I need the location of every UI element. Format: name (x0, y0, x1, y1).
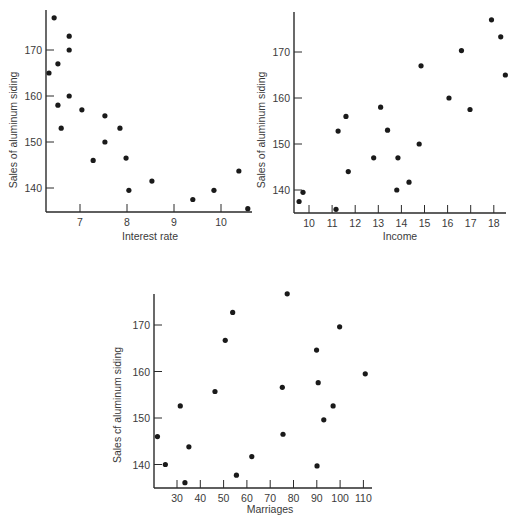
scatter-chart-marriages: Sales cf aluminum siding Marriages 14015… (110, 270, 390, 519)
x-tick-label: 10 (215, 216, 227, 228)
data-point (67, 34, 72, 39)
data-point (79, 107, 84, 112)
data-point (314, 348, 319, 353)
axes: 140150160170101112131415161718 (272, 12, 506, 229)
y-axis-label: Sales of aluminum siding (7, 71, 19, 188)
data-point (178, 403, 183, 408)
data-point (296, 199, 301, 204)
data-point (102, 139, 107, 144)
data-point (300, 190, 305, 195)
data-point (280, 385, 285, 390)
data-points (46, 15, 250, 211)
data-points (296, 17, 507, 212)
scatter-chart-interest-rate: Sales of aluminum siding Interest rate 1… (0, 0, 258, 250)
y-tick-label: 160 (24, 90, 42, 102)
data-point (503, 72, 508, 77)
data-point (91, 158, 96, 163)
data-point (417, 141, 422, 146)
y-axis-title: Sales of aluminum siding (7, 71, 19, 188)
data-point (155, 434, 160, 439)
y-tick-label: 150 (24, 136, 42, 148)
y-tick-label: 140 (132, 459, 150, 471)
scatter-chart-income: Sales of aluminum siding Income 14015016… (250, 0, 515, 250)
data-point (230, 310, 235, 315)
data-point (52, 15, 57, 20)
data-point (489, 17, 494, 22)
data-point (59, 126, 64, 131)
data-point (378, 105, 383, 110)
data-point (498, 34, 503, 39)
y-tick-label: 160 (272, 92, 290, 104)
data-point (406, 180, 411, 185)
data-point (212, 389, 217, 394)
data-point (117, 126, 122, 131)
data-point (418, 63, 423, 68)
data-point (234, 473, 239, 478)
x-tick-label: 50 (218, 492, 230, 504)
x-tick-label: 70 (264, 492, 276, 504)
data-point (55, 61, 60, 66)
data-point (249, 454, 254, 459)
data-point (123, 156, 128, 161)
data-point (363, 371, 368, 376)
y-tick-label: 170 (132, 319, 150, 331)
data-point (395, 155, 400, 160)
data-point (346, 169, 351, 174)
data-points (155, 291, 368, 485)
x-axis-label: Income (383, 230, 418, 242)
data-point (331, 403, 336, 408)
x-tick-label: 13 (372, 217, 384, 229)
x-tick-label: 9 (171, 216, 177, 228)
data-point (102, 113, 107, 118)
x-tick-label: 30 (171, 492, 183, 504)
data-point (236, 168, 241, 173)
y-tick-label: 140 (24, 182, 42, 194)
data-point (316, 380, 321, 385)
data-point (394, 187, 399, 192)
x-axis-label: Interest rate (122, 230, 178, 242)
data-point (46, 70, 51, 75)
data-point (371, 155, 376, 160)
data-point (67, 93, 72, 98)
y-tick-label: 140 (272, 184, 290, 196)
x-tick-label: 40 (194, 492, 206, 504)
data-point (182, 480, 187, 485)
x-tick-label: 17 (465, 217, 477, 229)
x-tick-label: 10 (303, 217, 315, 229)
x-tick-label: 15 (419, 217, 431, 229)
data-point (280, 432, 285, 437)
data-point (321, 417, 326, 422)
data-point (343, 114, 348, 119)
data-point (446, 95, 451, 100)
x-tick-label: 11 (327, 217, 338, 229)
data-point (186, 444, 191, 449)
data-point (211, 188, 216, 193)
x-tick-label: 100 (331, 492, 349, 504)
data-point (459, 48, 464, 53)
y-axis-title: Sales of aluminum siding (255, 71, 267, 188)
chart-canvas: Sales of aluminum siding Interest rate 1… (0, 0, 258, 250)
y-tick-label: 170 (272, 46, 290, 58)
x-tick-label: 7 (77, 216, 83, 228)
x-tick-label: 110 (355, 492, 372, 504)
x-tick-label: 80 (288, 492, 300, 504)
data-point (55, 103, 60, 108)
data-point (336, 129, 341, 134)
data-point (190, 197, 195, 202)
chart-canvas: Sales cf aluminum siding Marriages 14015… (110, 270, 390, 519)
y-tick-label: 150 (132, 412, 150, 424)
x-tick-label: 90 (311, 492, 323, 504)
data-point (314, 463, 319, 468)
y-tick-label: 150 (272, 138, 290, 150)
x-tick-label: 12 (349, 217, 361, 229)
y-tick-label: 170 (24, 44, 42, 56)
data-point (67, 47, 72, 52)
data-point (126, 188, 131, 193)
data-point (333, 207, 338, 212)
y-tick-label: 160 (132, 366, 150, 378)
data-point (285, 291, 290, 296)
x-axis-label: Marriages (247, 503, 294, 515)
x-tick-label: 16 (442, 217, 454, 229)
chart-canvas: Sales of aluminum siding Income 14015016… (250, 0, 515, 250)
y-axis-label: Sales cf aluminum siding (111, 347, 123, 463)
